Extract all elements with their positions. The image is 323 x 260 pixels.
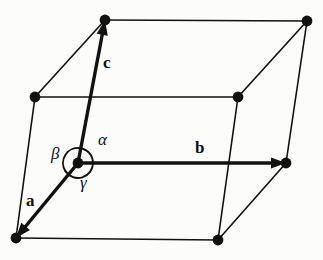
back-right-vertex (233, 92, 244, 103)
bottom-right-vertex (213, 235, 224, 246)
edge-midright-bottomright (218, 97, 238, 240)
edge-topright-right (286, 21, 307, 163)
lattice-vectors (16, 20, 286, 238)
angle-label-beta: β (51, 145, 59, 162)
vector-label-a: a (26, 192, 35, 209)
right-vertex (281, 158, 292, 169)
top-right-vertex (302, 16, 313, 27)
top-left-vertex (100, 15, 111, 26)
cell-vertices (11, 15, 313, 246)
cell-edges (16, 20, 307, 240)
vector-label-c: c (103, 54, 111, 71)
edge-bottomleft-bottomright (16, 238, 218, 240)
edge-top-back (105, 20, 307, 21)
edge-bottomright-right (218, 163, 286, 240)
edge-midleft-topleft (35, 20, 105, 97)
bottom-left-vertex (11, 233, 22, 244)
unit-cell-drawing (0, 0, 323, 260)
left-middle-vertex (30, 92, 41, 103)
angle-label-gamma: γ (80, 174, 87, 191)
vector-b (78, 157, 286, 168)
vector-label-b: b (195, 139, 204, 156)
origin-vertex (73, 158, 84, 169)
unit-cell-figure: abcαβγ (0, 0, 323, 260)
angle-label-alpha: α (98, 131, 107, 148)
